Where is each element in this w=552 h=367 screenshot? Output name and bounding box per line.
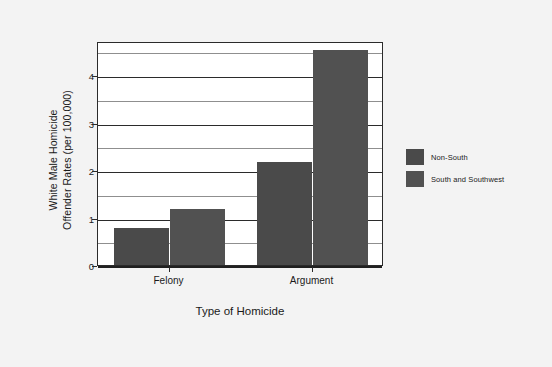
x-axis-title: Type of Homicide <box>97 305 383 317</box>
x-axis-tick-label: Argument <box>290 275 333 286</box>
bar <box>313 50 368 265</box>
bars-group <box>98 43 382 265</box>
y-axis-title-line-1: White Male Homicide <box>46 90 60 230</box>
x-axis-tick-mark <box>169 267 170 272</box>
plot-area <box>97 42 383 266</box>
bar <box>257 162 312 265</box>
y-axis-tick-labels: 01234 <box>72 0 94 367</box>
legend-item[interactable]: South and Southwest <box>406 169 546 189</box>
chart-figure: White Male Homicide Offender Rates (per … <box>0 0 552 367</box>
legend-swatch-icon <box>406 171 424 187</box>
x-axis-tick-mark <box>312 267 313 272</box>
chart-legend: Non-SouthSouth and Southwest <box>406 147 546 191</box>
y-axis-tick-mark <box>92 124 97 125</box>
y-axis-tick-mark <box>92 171 97 172</box>
x-axis-tick-label: Felony <box>153 275 183 286</box>
legend-item-label: South and Southwest <box>431 175 504 184</box>
axis-baseline <box>98 266 382 268</box>
legend-swatch-icon <box>406 149 424 165</box>
bar <box>114 228 169 265</box>
y-axis-tick-mark <box>92 266 97 267</box>
y-axis-tick-mark <box>92 76 97 77</box>
y-axis-tick-mark <box>92 219 97 220</box>
legend-item[interactable]: Non-South <box>406 147 546 167</box>
legend-item-label: Non-South <box>431 153 468 162</box>
bar <box>170 209 225 265</box>
